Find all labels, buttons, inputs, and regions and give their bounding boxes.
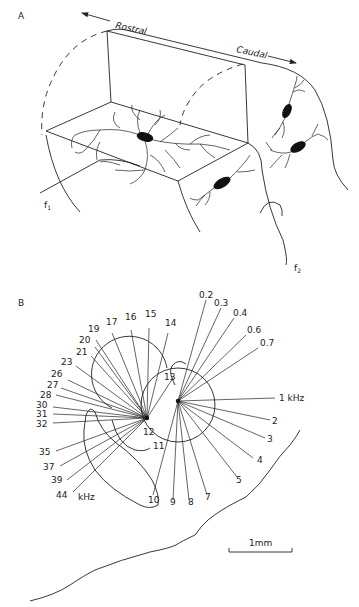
- freq-label: 0.3: [214, 298, 228, 308]
- panel-b: B 1mm: [18, 290, 305, 601]
- freq-label: 9: [170, 497, 176, 507]
- freq-label: 14: [165, 318, 177, 328]
- freq-label: 21: [76, 347, 87, 357]
- freq-label: 32: [36, 419, 47, 429]
- freq-label: 0.4: [233, 308, 248, 318]
- freq-label: 20: [79, 335, 91, 345]
- left-semicircle: [92, 336, 167, 408]
- neuron-soma: [212, 175, 232, 191]
- freq-label: 13: [164, 372, 175, 382]
- slab-vertical-left: [107, 31, 111, 102]
- fiber-f2-label: f2: [294, 263, 301, 274]
- freq-label: 28: [40, 390, 52, 400]
- slab-top-edge: [107, 31, 245, 65]
- freq-label: 37: [43, 462, 54, 472]
- freq-label: 15: [145, 309, 156, 319]
- fiber-f1: [40, 160, 140, 193]
- freq-label: 8: [188, 497, 194, 507]
- left-fan-rays: [53, 328, 173, 492]
- fiber-f1-label: f1: [44, 200, 51, 211]
- freq-label: 44: [56, 490, 68, 500]
- unit-label: kHz: [78, 492, 95, 502]
- left-convergence-point: [145, 416, 149, 420]
- rostral-arrow-icon: [82, 13, 110, 21]
- freq-label: 5: [236, 475, 242, 485]
- neuron-right-mid: [266, 124, 328, 168]
- slab-vertical-right: [245, 65, 248, 143]
- freq-label: 0.7: [260, 338, 274, 348]
- freq-label: 4: [257, 455, 263, 465]
- freq-label: 23: [61, 357, 72, 367]
- dashed-outline-mid: [180, 64, 243, 125]
- freq-label: 12: [143, 427, 154, 437]
- freq-label: 17: [106, 317, 117, 327]
- freq-label: 1 kHz: [279, 393, 305, 403]
- freq-label: 2: [272, 416, 278, 426]
- dendrites-main: [71, 105, 230, 184]
- dashed-outline-left: [42, 31, 107, 135]
- freq-label: 10: [148, 495, 160, 505]
- neuron-right-top: [272, 76, 305, 138]
- freq-label: 16: [125, 312, 137, 322]
- outer-contour-right: [262, 63, 348, 190]
- caudal-arrow-icon: [268, 56, 296, 63]
- freq-label: 11: [153, 441, 164, 451]
- panel-a: A Rostral Caudal f1 f2: [18, 11, 348, 274]
- scale-bar-label: 1mm: [249, 538, 272, 548]
- right-convergence-point: [176, 399, 180, 403]
- freq-label: 26: [51, 369, 63, 379]
- outer-contour-mid: [178, 181, 200, 232]
- freq-label: 19: [88, 324, 100, 334]
- freq-label: 31: [36, 409, 47, 419]
- scale-bar: [229, 548, 292, 552]
- neuron-lower: [190, 155, 255, 206]
- neuron-soma: [289, 140, 307, 155]
- figure-canvas: A Rostral Caudal f1 f2: [0, 0, 359, 607]
- panel-a-label: A: [18, 11, 25, 21]
- freq-label: 3: [267, 434, 273, 444]
- neuron-soma: [281, 103, 293, 119]
- panel-b-label: B: [18, 298, 24, 308]
- freq-label: 39: [51, 475, 63, 485]
- neuron-main: [71, 105, 230, 184]
- freq-label: 0.2: [199, 290, 213, 300]
- freq-label: 7: [205, 492, 211, 502]
- outer-contour-f2: [248, 143, 287, 265]
- freq-label: 27: [47, 380, 58, 390]
- freq-label: 35: [39, 447, 50, 457]
- freq-label: 0.6: [247, 325, 262, 335]
